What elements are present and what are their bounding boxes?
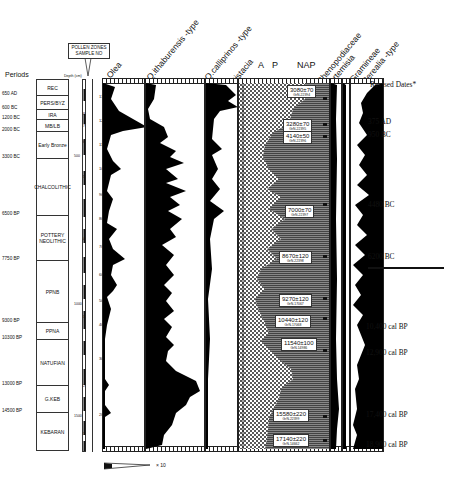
sample-no-label: SAMPLE NO [69, 51, 109, 57]
nap-label: NAP [297, 60, 316, 70]
revised-date: 375 AD [368, 117, 391, 126]
age-label: 2000 BC [2, 127, 20, 132]
period-ppnb: PPNB [36, 261, 69, 323]
revised-date: 4480 BC [368, 200, 395, 209]
depth-mark: 1000 [74, 302, 82, 306]
zone-number: 3 [83, 315, 85, 319]
age-label: 650 AD [2, 91, 17, 96]
radiocarbon-date: 4140±50GrN-22396 [283, 131, 312, 144]
revised-date: 17,400 cal BP [366, 410, 408, 419]
radiocarbon-date: 3080±70GrN-22394 [287, 85, 316, 98]
age-label: 6500 BP [2, 211, 20, 216]
age-label: 3300 BC [2, 154, 20, 159]
period-early-bronze: Early Bronze [36, 132, 69, 159]
panel-q-ithaburensis [145, 78, 205, 452]
depth-bar-pattern [82, 79, 88, 452]
age-label: 14500 BP [2, 408, 22, 413]
age-label: 7750 BP [2, 256, 20, 261]
radiocarbon-date: 10440±120GrN-17068 [275, 315, 311, 328]
periods-title: Periods [5, 71, 29, 78]
depth-mark: 500 [74, 154, 80, 158]
period-chalcolithic: CHALCOLITHIC [36, 159, 69, 216]
zone-pointer-icon [82, 58, 94, 78]
pollen-zones-label: POLLEN ZONES [69, 45, 109, 51]
q-ithaburensis-curve [146, 79, 205, 452]
age-label: 600 BC [2, 105, 17, 110]
divider-line [368, 267, 444, 269]
panel-ap-nap: 3080±70GrN-22394 3280±70GrN-22395 4140±5… [238, 78, 330, 452]
sample-marker [323, 203, 327, 206]
period-natufian: NATUFIAN [36, 340, 69, 386]
age-label: 10300 BP [2, 335, 22, 340]
radiocarbon-date: 17140±220GrN-14662 [273, 434, 309, 447]
period-g-keb: G.KEB [36, 386, 69, 413]
age-label: 9300 BP [2, 318, 20, 323]
radiocarbon-date: 15580±220GrN-22399 [273, 409, 309, 422]
sample-marker [323, 255, 327, 258]
zone-number: 5 [83, 175, 85, 179]
date-lab-code: GrN-14986 [284, 347, 314, 350]
sample-strip [92, 79, 98, 452]
sample-marker [323, 135, 327, 138]
olea-curve [103, 79, 145, 452]
period-ppna: PPNA [36, 323, 69, 340]
sample-marker [323, 97, 327, 100]
age-label: 1200 BC [2, 115, 20, 120]
panel-artemisia [342, 78, 350, 452]
revised-date: 18,900 cal BP [366, 440, 408, 449]
date-lab-code: GrN-17067 [282, 303, 309, 306]
period-kebaran: KEBARAN [36, 413, 69, 451]
sample-marker [323, 123, 327, 126]
pollen-zones-header: POLLEN ZONES SAMPLE NO [68, 43, 110, 59]
revised-dates-title: Revised Dates* [370, 80, 416, 89]
taxon-olea: Olea [104, 60, 123, 80]
period-pers-byz: PERS/BYZ [36, 96, 69, 110]
sample-marker [323, 349, 327, 352]
sample-marker [323, 297, 327, 300]
revised-date: 950 BC [368, 130, 391, 139]
date-lab-code: GrN-17068 [278, 324, 308, 327]
chenopodiaceae-curve [331, 79, 342, 452]
date-lab-code: GrN-22399 [276, 418, 306, 421]
period-pottery-neolithic: POTTERY NEOLITHIC [36, 216, 69, 261]
period-rec: REC [36, 79, 69, 96]
age-label: 13000 BP [2, 381, 22, 386]
exaggeration-label: × 10 [156, 462, 166, 468]
panel-olea [102, 78, 145, 452]
sample-marker [323, 317, 327, 320]
date-lab-code: GrN-22396 [286, 140, 309, 143]
date-lab-code: GrN-22397 [288, 214, 311, 217]
period-ira: IRA [36, 110, 69, 120]
depth-label: Depth (cm) [64, 74, 82, 78]
q-calliprinos-curve [206, 79, 238, 452]
zone-number: 1 [83, 432, 85, 436]
radiocarbon-date: 7000±70GrN-22397 [285, 205, 314, 218]
zone-number: 2 [83, 384, 85, 388]
panel-q-calliprinos [205, 78, 238, 452]
zone-number: 6 [83, 140, 85, 144]
artemisia-curve [343, 79, 350, 452]
ap-label: A P [258, 60, 281, 70]
zone-number: 7 [83, 124, 85, 128]
panel-chenopodiaceae [330, 78, 342, 452]
taxon-q-ithaburensis: Q.ithaburensis -type [144, 17, 201, 82]
radiocarbon-date: 8670±120GrN-22398 [279, 251, 312, 264]
date-lab-code: GrN-22398 [282, 260, 309, 263]
zone-number: 8 [83, 112, 85, 116]
depth-mark: 1500 [74, 414, 82, 418]
period-mb-lb: MB/LB [36, 120, 69, 132]
revised-date: 10,400 cal BP [366, 322, 408, 331]
date-lab-code: GrN-14662 [276, 443, 306, 446]
sample-marker [323, 415, 327, 418]
radiocarbon-date: 11540±100GrN-14986 [281, 338, 317, 351]
radiocarbon-date: 9270±120GrN-17067 [279, 294, 312, 307]
date-lab-code: GrN-22394 [290, 94, 313, 97]
zone-number: 4 [83, 237, 85, 241]
sample-marker [323, 439, 327, 442]
exaggeration-wedge-icon [104, 462, 152, 470]
revised-date: 6200 BC [368, 252, 395, 261]
revised-date: 12,900 cal BP [366, 348, 408, 357]
